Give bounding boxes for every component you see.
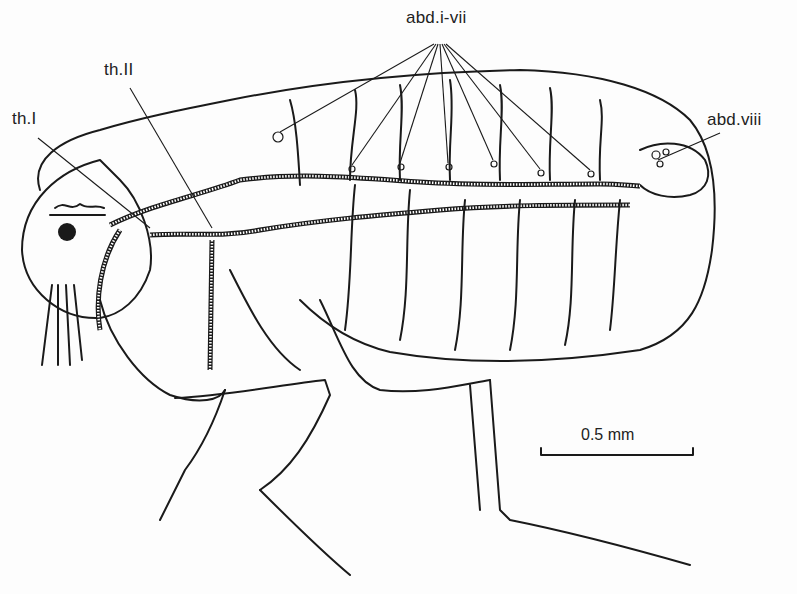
palps: [42, 285, 82, 365]
label-abd-viii: abd.viii: [707, 110, 762, 130]
head-outline: [22, 160, 151, 318]
scale-bar: [541, 448, 693, 455]
flea-tracheal-diagram: abd.i-vii th.II th.I abd.viii 0.5 mm: [0, 0, 797, 594]
abdominal-spiracles: [273, 132, 594, 177]
scale-bar-label: 0.5 mm: [581, 426, 634, 444]
label-th-i: th.I: [12, 109, 36, 129]
segmental-tracheae: [290, 80, 620, 350]
antennal-groove: [50, 204, 105, 215]
abdomen-tip: [640, 143, 708, 197]
eye: [58, 223, 76, 241]
flea-illustration: [0, 0, 797, 594]
label-abd-i-vii: abd.i-vii: [406, 8, 466, 28]
leader-lines: [38, 44, 720, 228]
label-th-ii: th.II: [104, 60, 133, 80]
legs: [100, 270, 690, 575]
